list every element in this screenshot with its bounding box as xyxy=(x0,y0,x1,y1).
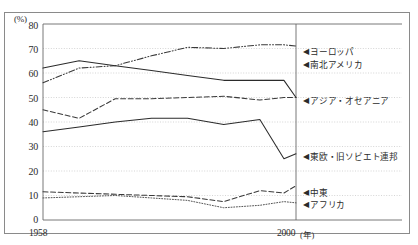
series-line-3 xyxy=(43,118,296,158)
gridlines xyxy=(43,24,402,220)
chart-plot xyxy=(0,0,418,245)
plot-box xyxy=(43,24,296,220)
series-line-2 xyxy=(43,96,296,118)
series-lines xyxy=(43,45,296,208)
series-line-1 xyxy=(43,61,296,98)
series-line-0 xyxy=(43,45,296,83)
series-line-5 xyxy=(43,196,296,208)
